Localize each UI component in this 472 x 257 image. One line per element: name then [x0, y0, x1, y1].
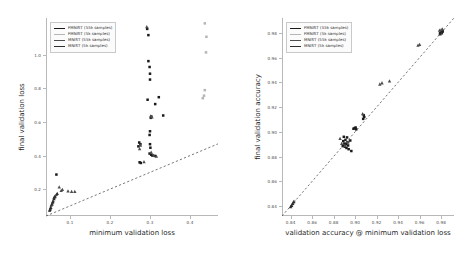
x-tick-mark [355, 216, 356, 219]
x-tick-label: 0.3 [147, 220, 154, 225]
y-tick-mark [279, 132, 282, 133]
data-point [148, 134, 151, 137]
y-tick-mark [279, 206, 282, 207]
plot-area-accuracy: 0.840.860.880.900.920.940.960.98 0.840.8… [282, 18, 454, 216]
data-point [291, 202, 294, 205]
x-axis-title: minimum validation loss [89, 229, 175, 237]
data-point [354, 126, 357, 129]
data-point [347, 148, 350, 151]
data-point [292, 200, 295, 203]
legend-label: MNIST (5k samples) [68, 44, 108, 48]
x-tick-label: 0.94 [393, 220, 403, 225]
data-point [55, 193, 58, 196]
data-point [154, 155, 157, 158]
data-point [149, 78, 152, 81]
legend-swatch [54, 40, 65, 41]
y-tick-label: 0.88 [267, 154, 277, 159]
data-point [73, 190, 76, 193]
data-point [52, 197, 55, 200]
data-point [70, 190, 73, 193]
y-tick-label: 0.2 [34, 187, 41, 192]
legend-label: FMNIST (55k samples) [304, 26, 348, 30]
data-point [346, 136, 349, 139]
data-point [342, 140, 345, 143]
y-tick-mark [279, 107, 282, 108]
data-point [439, 28, 442, 31]
data-point [162, 114, 165, 117]
data-point [49, 206, 52, 209]
data-point [137, 145, 140, 148]
data-point [61, 188, 64, 191]
data-point [350, 150, 353, 153]
y-tick-label: 0.92 [267, 105, 277, 110]
x-tick-mark [312, 216, 313, 219]
data-point [203, 94, 206, 97]
data-point [57, 185, 60, 188]
data-point [416, 43, 419, 46]
legend-item: MNIST (5k samples) [290, 43, 348, 49]
data-point [204, 22, 207, 25]
legend-swatch [290, 34, 301, 35]
data-point [148, 66, 151, 69]
x-tick-label: 0.88 [329, 220, 339, 225]
legend-label: FMNIST (5k samples) [304, 32, 346, 36]
data-point [138, 161, 141, 164]
panel-loss-scatter: 0.10.20.30.4 0.20.40.60.81.0 minimum val… [0, 0, 236, 257]
y-tick-label: 0.96 [267, 55, 277, 60]
data-point [353, 127, 356, 130]
data-point [380, 81, 383, 84]
data-point [289, 205, 292, 208]
data-point [142, 160, 145, 163]
legend-item: MNIST (5k samples) [54, 43, 112, 49]
x-axis-spine [282, 215, 454, 216]
data-point [49, 206, 52, 209]
data-point [378, 82, 381, 85]
data-point [292, 201, 295, 204]
legend-swatch [290, 40, 301, 41]
panel-accuracy-scatter: 0.840.860.880.900.920.940.960.98 0.840.8… [236, 0, 472, 257]
data-point [145, 25, 148, 28]
data-point [50, 202, 53, 205]
y-tick-label: 0.8 [34, 86, 41, 91]
data-point [362, 114, 365, 117]
data-point [149, 114, 152, 117]
y-tick-mark [43, 88, 46, 89]
y-axis-title: final validation loss [18, 83, 26, 151]
data-point [441, 31, 444, 34]
data-point [440, 32, 443, 35]
y-tick-mark [279, 181, 282, 182]
data-point [352, 128, 355, 131]
data-point [150, 115, 153, 118]
y-tick-mark [279, 58, 282, 59]
y-tick-label: 1.0 [34, 52, 41, 57]
data-point [149, 143, 152, 146]
data-point [139, 143, 142, 146]
data-point [151, 154, 154, 157]
legend-swatch [54, 46, 65, 47]
x-tick-mark [70, 216, 71, 219]
data-point [59, 189, 62, 192]
data-point [341, 145, 344, 148]
data-point [362, 118, 365, 121]
data-point [205, 36, 208, 39]
data-point [355, 128, 358, 131]
y-axis-spine [282, 18, 283, 216]
plot-area-loss: 0.10.20.30.4 0.20.40.60.81.0 minimum val… [46, 18, 218, 216]
y-axis-title: final validation accuracy [254, 74, 262, 160]
y-tick-label: 0.86 [267, 179, 277, 184]
legend-swatch [54, 34, 65, 35]
data-point [346, 140, 349, 143]
data-point [155, 154, 158, 157]
data-point [388, 79, 391, 82]
data-point [343, 142, 346, 145]
data-point [438, 29, 441, 32]
data-point [152, 154, 155, 157]
y-tick-label: 0.84 [267, 204, 277, 209]
data-point [146, 28, 149, 31]
data-point [53, 195, 56, 198]
y-axis-spine [46, 18, 47, 216]
data-point [51, 200, 54, 203]
data-point [363, 116, 366, 119]
x-tick-mark [398, 216, 399, 219]
x-tick-label: 0.96 [415, 220, 425, 225]
